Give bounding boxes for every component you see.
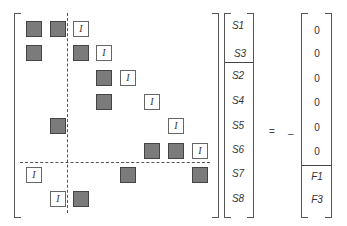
nonzero-block: [26, 45, 42, 61]
unknown-entry-s4: S4: [223, 95, 253, 106]
nonzero-block: [96, 94, 112, 110]
matrix-vertical-partition: [67, 13, 68, 213]
identity-block: I: [96, 45, 112, 61]
matrix-horizontal-partition: [20, 162, 210, 163]
identity-block: I: [50, 191, 66, 207]
rhs-entry-f1: F1: [302, 171, 332, 182]
nonzero-block: [144, 143, 160, 159]
rhs-vector-left-bracket: [301, 13, 308, 218]
rhs-entry-f3: F3: [302, 194, 332, 205]
unknown-entry-s1: S1: [223, 20, 253, 31]
unknown-vector-right-bracket: [247, 13, 254, 218]
nonzero-block: [96, 70, 112, 86]
identity-block: I: [192, 143, 208, 159]
unknown-entry-s2: S2: [223, 70, 253, 81]
matrix-right-bracket: [212, 13, 219, 218]
equals-sign: =: [269, 126, 275, 137]
unknown-entry-s6: S6: [223, 144, 253, 155]
rhs-entry-5: 0: [302, 122, 332, 133]
nonzero-block: [120, 167, 136, 183]
nonzero-block: [26, 21, 42, 37]
nonzero-block: [50, 21, 66, 37]
unknown-entry-s8: S8: [223, 193, 253, 204]
matrix-left-bracket: [14, 13, 21, 218]
rhs-vector-partition: [302, 165, 332, 166]
identity-block: I: [168, 118, 184, 134]
identity-block: I: [120, 70, 136, 86]
nonzero-block: [168, 143, 184, 159]
nonzero-block: [73, 45, 89, 61]
unknown-vector-left-bracket: [224, 13, 231, 218]
rhs-entry-6: 0: [302, 146, 332, 157]
unknown-vector-partition: [225, 62, 253, 63]
identity-block: I: [26, 167, 42, 183]
unknown-entry-s7: S7: [223, 168, 253, 179]
nonzero-block: [73, 191, 89, 207]
unknown-entry-s5: S5: [223, 120, 253, 131]
nonzero-block: [50, 118, 66, 134]
rhs-entry-1: 0: [302, 25, 332, 36]
rhs-vector-right-bracket: [325, 13, 332, 218]
rhs-entry-4: 0: [302, 97, 332, 108]
nonzero-block: [192, 167, 208, 183]
identity-block: I: [73, 21, 89, 37]
unknown-entry-s3: S3: [225, 48, 255, 59]
identity-block: I: [144, 94, 160, 110]
rhs-entry-3: 0: [302, 73, 332, 84]
rhs-entry-2: 0: [302, 48, 332, 59]
minus-sign: –: [288, 128, 294, 139]
